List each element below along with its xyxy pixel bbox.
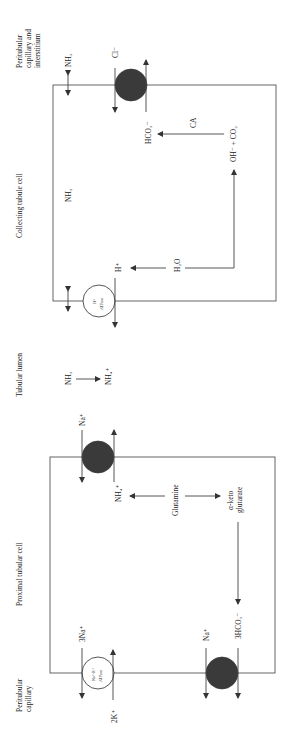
h-plus-label: H⁺: [114, 263, 123, 272]
label-tubular-lumen: Tubular lumen: [15, 353, 24, 397]
svg-text:Peritubular: Peritubular: [15, 34, 24, 68]
h2o-label: H₂O: [173, 258, 182, 272]
k2-label: 2K⁺: [110, 710, 119, 723]
hco3-3-label: 3HCO₃⁻: [234, 613, 243, 639]
akg-label-1: α-keto: [226, 490, 235, 510]
cl-label: Cl⁻: [111, 47, 120, 58]
svg-text:Peritubular: Peritubular: [15, 678, 24, 712]
label-peritubular-capillary: Peritubular capillary: [15, 678, 33, 712]
akg-label-2: glutarate: [235, 486, 244, 513]
na-nh4-exchanger-icon: [82, 441, 114, 473]
renal-ammonia-diagram: Peritubular capillary and interstitium C…: [0, 0, 284, 751]
nh3-basolateral-label: NH₃: [64, 53, 73, 67]
nh4-proximal-label: NH₄⁺: [114, 485, 123, 502]
collecting-cell-membrane: [53, 85, 276, 301]
lumen-nh3-label: NH₃: [64, 371, 73, 385]
svg-text:capillary: capillary: [24, 686, 33, 712]
na3-label: 3Na⁺: [78, 626, 87, 642]
h-atpase-label-2: ATPase: [99, 298, 104, 310]
nak-atpase-label-1: Na⁺-K⁺: [91, 668, 96, 681]
lumen-nh4-label: NH₄⁺: [104, 368, 113, 385]
h-atpase-label-1: H⁺: [92, 299, 97, 304]
glutamine-label: Glutamine: [171, 484, 180, 516]
nak-atpase-label-2: ATPase: [98, 670, 103, 682]
na-hco3-cotransporter-icon: [206, 657, 238, 689]
svg-text:interstitium: interstitium: [33, 33, 42, 68]
label-proximal-tubular-cell: Proximal tubular cell: [15, 543, 24, 606]
hco3-label: HCO₃⁻: [144, 122, 153, 144]
label-peritubular-interstitium: Peritubular capillary and interstitium: [15, 29, 42, 68]
label-collecting-tubule-cell: Collecting tubule cell: [15, 173, 24, 238]
svg-text:capillary and: capillary and: [24, 29, 33, 68]
oh-co2-label: OH⁻ + CO₂: [229, 126, 238, 162]
h2o-to-oh-path: [185, 170, 234, 268]
na-basolateral-label: Na⁺: [202, 628, 211, 641]
cl-hco3-exchanger-icon: [115, 69, 147, 101]
ca-label: CA: [189, 117, 198, 128]
nh3-inner-label: NH₃: [64, 188, 73, 202]
na-apical-label: Na⁺: [78, 413, 87, 426]
